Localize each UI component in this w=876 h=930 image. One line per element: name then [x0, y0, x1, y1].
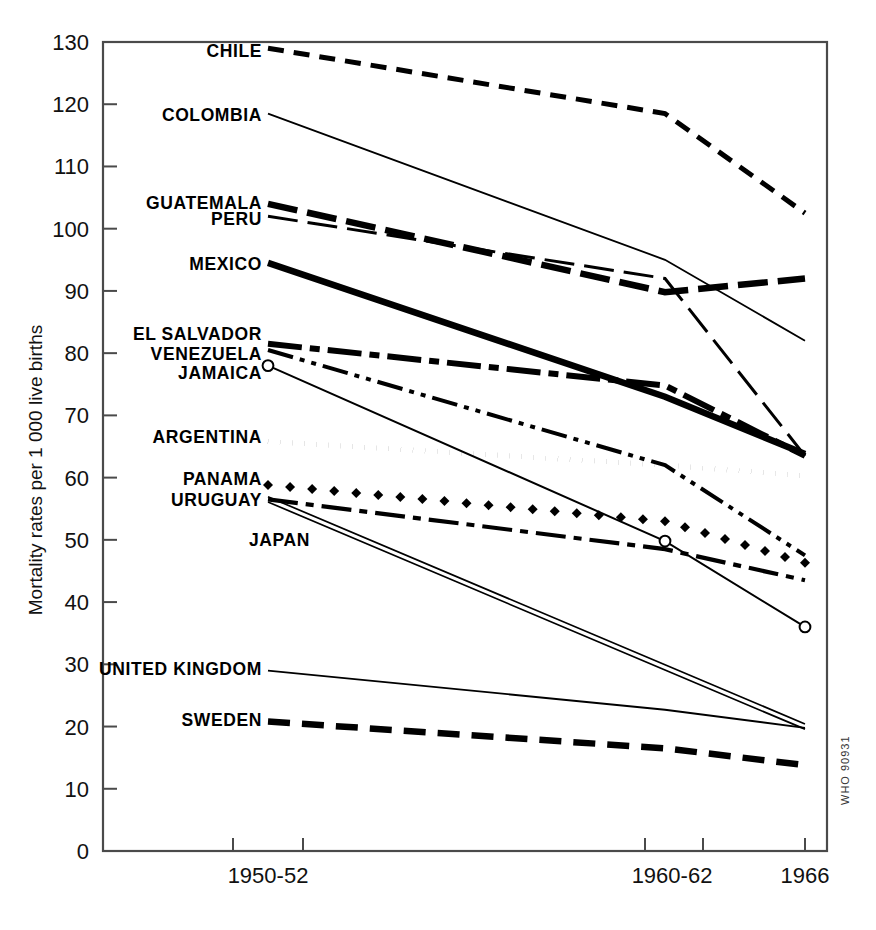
- series-line: [268, 497, 805, 724]
- series-marker-diamond: [680, 522, 690, 532]
- series-line: [268, 204, 805, 292]
- x-tick-label: 1960-62: [632, 863, 713, 888]
- series-line: [268, 350, 805, 555]
- series-line: [268, 722, 805, 766]
- who-code-label: WHO 90931: [839, 735, 851, 805]
- series-marker-diamond: [307, 484, 317, 494]
- x-tick-label: 1950-52: [228, 863, 309, 888]
- series-marker-diamond: [528, 504, 538, 514]
- series-line: [268, 48, 805, 213]
- series-marker-diamond: [594, 510, 604, 520]
- series-label: PANAMA: [183, 469, 262, 489]
- series-line: [268, 442, 805, 476]
- y-tick-label: 30: [65, 652, 89, 677]
- series-marker-diamond: [417, 494, 427, 504]
- series-label: JAMAICA: [178, 363, 262, 383]
- y-axis-ticks: [103, 104, 117, 851]
- y-tick-label: 60: [65, 466, 89, 491]
- y-tick-label: 130: [52, 30, 89, 55]
- series-marker-diamond: [760, 546, 770, 556]
- y-tick-label: 10: [65, 777, 89, 802]
- series-line: [268, 671, 805, 728]
- series-marker-diamond: [550, 506, 560, 516]
- y-tick-label: 20: [65, 715, 89, 740]
- y-tick-label: 100: [52, 217, 89, 242]
- series-label: JAPAN: [249, 530, 310, 550]
- y-tick-label: 110: [54, 154, 89, 179]
- series-label: UNITED KINGDOM: [99, 659, 262, 679]
- series-marker-diamond: [285, 482, 295, 492]
- series-label: URUGUAY: [171, 490, 262, 510]
- series-marker-diamond: [700, 528, 710, 538]
- y-tick-label: 70: [65, 403, 89, 428]
- series-point-marker: [660, 536, 671, 547]
- y-tick-label: 40: [65, 590, 89, 615]
- series-label: PERU: [211, 209, 262, 229]
- y-tick-label: 90: [65, 279, 89, 304]
- series-marker-diamond: [572, 508, 582, 518]
- series-marker-diamond: [506, 502, 516, 512]
- series-label: ARGENTINA: [153, 427, 262, 447]
- y-tick-label: 120: [52, 92, 89, 117]
- y-tick-label: 0: [77, 839, 89, 864]
- series-label: VENEZUELA: [151, 344, 262, 364]
- series-line: [268, 114, 805, 341]
- series-label: SWEDEN: [182, 710, 262, 730]
- y-tick-label: 80: [65, 341, 89, 366]
- series-marker-diamond: [395, 492, 405, 502]
- series-label: COLOMBIA: [162, 105, 262, 125]
- data-point-markers: [263, 360, 811, 632]
- series-label-group: CHILECOLOMBIAGUATEMALAPERUMEXICOEL SALVA…: [99, 41, 310, 731]
- y-axis-title: Mortality rates per 1 000 live births: [25, 325, 46, 615]
- series-marker-diamond: [660, 516, 670, 526]
- y-tick-label: 50: [65, 528, 89, 553]
- x-axis-ticks: [233, 838, 805, 851]
- series-marker-diamond: [780, 552, 790, 562]
- series-marker-diamond: [484, 500, 494, 510]
- mortality-line-chart: 0102030405060708090100110120130 1950-521…: [0, 0, 876, 930]
- series-point-marker: [800, 622, 811, 633]
- series-line: [268, 366, 805, 627]
- chart-canvas: 0102030405060708090100110120130 1950-521…: [0, 0, 876, 930]
- series-marker-diamond: [462, 498, 472, 508]
- series-marker-diamond: [439, 496, 449, 506]
- series-marker-diamond: [351, 488, 361, 498]
- series-marker-diamond: [720, 534, 730, 544]
- series-line: [268, 344, 805, 456]
- y-axis-tick-labels: 0102030405060708090100110120130: [52, 30, 89, 864]
- series-marker-diamond: [373, 490, 383, 500]
- x-tick-label: 1966: [781, 863, 830, 888]
- series-marker-diamond: [263, 480, 273, 490]
- series-label: CHILE: [207, 41, 263, 61]
- series-marker-diamond: [329, 486, 339, 496]
- x-axis-tick-labels: 1950-521960-621966: [228, 863, 830, 888]
- data-series-group: [263, 48, 810, 765]
- series-point-marker: [263, 360, 274, 371]
- series-line: [268, 263, 805, 454]
- series-label: MEXICO: [189, 254, 262, 274]
- series-marker-diamond: [800, 558, 810, 568]
- series-marker-diamond: [638, 514, 648, 524]
- series-label: EL SALVADOR: [133, 324, 262, 344]
- series-marker-diamond: [740, 540, 750, 550]
